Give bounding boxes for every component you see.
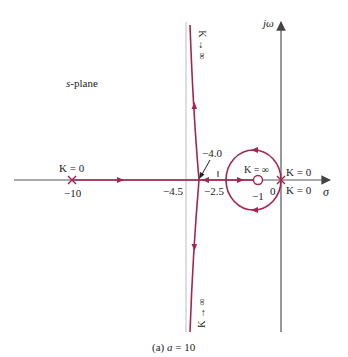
origin-value: 0 xyxy=(270,186,276,197)
imag-axis-label: jω xyxy=(263,18,274,29)
arrow-lower-branch xyxy=(192,244,198,251)
arrow-circle-bottom xyxy=(251,207,258,213)
arrow-real-mid xyxy=(202,177,209,183)
breakaway-pointer-head xyxy=(199,172,205,179)
lower-branch-gain: K → ∞ xyxy=(197,298,207,327)
arrow-real-left xyxy=(117,177,124,183)
caption-prefix: (a) xyxy=(152,341,167,353)
zero-marker-minus1 xyxy=(254,176,263,185)
figure-caption: (a) a = 10 xyxy=(152,342,195,353)
pole-minus10-value: −10 xyxy=(64,188,81,199)
breakin-value: −2.5 xyxy=(204,186,224,197)
arrow-upper-branch xyxy=(192,102,198,109)
plane-label-rest: -plane xyxy=(70,77,97,89)
breakaway-value: −4.0 xyxy=(202,148,222,159)
zero-gain: K = ∞ xyxy=(244,165,269,175)
origin-gain-lower: K = 0 xyxy=(286,185,311,196)
caption-rest: = 10 xyxy=(172,341,195,353)
real-axis-label: σ xyxy=(323,186,329,198)
arrow-circle-top xyxy=(251,147,258,153)
plane-label: s-plane xyxy=(66,78,98,89)
root-locus-diagram xyxy=(0,0,348,357)
arrow-real-right xyxy=(237,177,244,183)
origin-gain-upper: K = 0 xyxy=(286,167,311,178)
zero-value: −1 xyxy=(252,191,264,202)
asymptote-value: −4.5 xyxy=(163,186,183,197)
pole-minus10-gain: K = 0 xyxy=(59,163,84,174)
upper-branch-gain: K → ∞ xyxy=(197,30,207,59)
